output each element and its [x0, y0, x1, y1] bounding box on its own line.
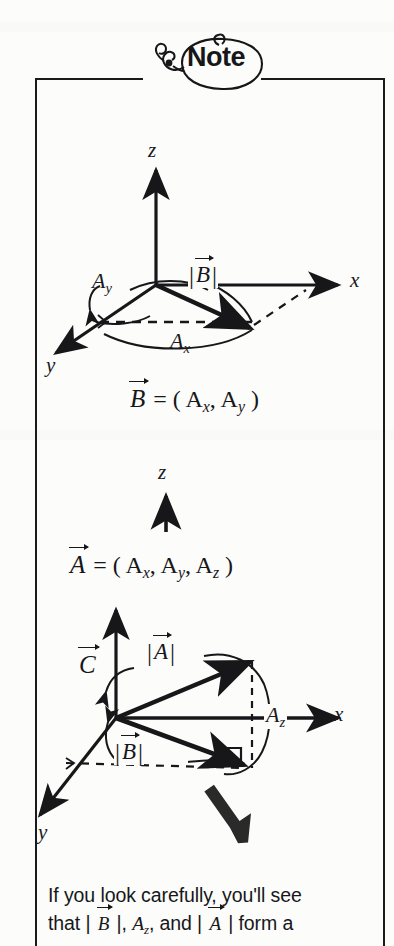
- mid-z-axis-group: z: [140, 470, 200, 540]
- dashed-b-projection: [66, 763, 243, 768]
- mid-axis-label-z: z: [158, 462, 166, 483]
- label-a-x: Ax: [170, 330, 190, 355]
- equation-vector-b: B = ( Ax, Ay ): [128, 386, 259, 415]
- axis-label-x: x: [350, 270, 359, 291]
- scan-artifact-band: [0, 22, 394, 32]
- vector-c-label: C: [76, 652, 99, 677]
- vector-a-components-diagram: x y C |A| |B| Az: [38, 600, 382, 860]
- note-badge: Note: [140, 33, 266, 95]
- dashed-projection-x: [254, 290, 306, 325]
- note-badge-label: Note: [187, 42, 245, 73]
- magnitude-b-label: |B|: [188, 263, 218, 288]
- magnitude-a-label: |A|: [146, 640, 176, 665]
- vector-b-projection-diagram: z x y Ay Ax |B|: [38, 150, 382, 365]
- axis-label-y: y: [38, 822, 47, 843]
- caption-line-2: that | B |, Az, and | A | form a: [48, 910, 378, 939]
- magnitude-b-label: |B|: [114, 740, 144, 765]
- thick-arrow-up-left-icon: [204, 782, 253, 845]
- axis-label-z: z: [148, 140, 156, 161]
- note-caption: If you look carefully, you'll see that |…: [48, 882, 378, 939]
- axis-label-x: x: [334, 704, 343, 725]
- y-axis-line: [40, 718, 116, 815]
- scanned-page: Note: [0, 0, 394, 946]
- arc-c: [106, 668, 134, 692]
- label-a-y: Ay: [92, 270, 112, 295]
- label-a-z: Az: [264, 704, 287, 729]
- equation-vector-a: A = ( Ax, Ay, Az ): [68, 552, 233, 581]
- axis-label-y: y: [46, 355, 55, 376]
- vector-a-arrow: [116, 662, 250, 718]
